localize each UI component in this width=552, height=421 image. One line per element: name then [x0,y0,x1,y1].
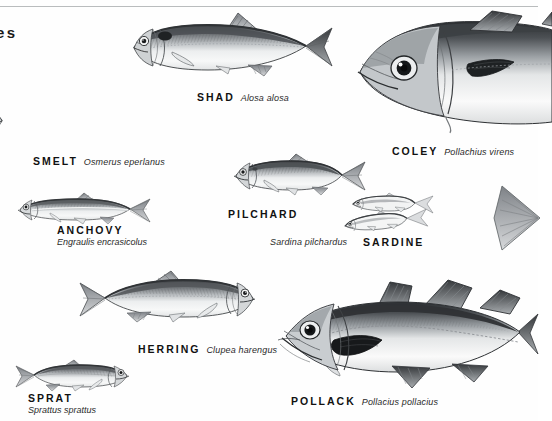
species-label-smelt: SMELTOsmerus eperlanus [33,150,165,170]
species-common-name: PILCHARD [228,208,298,220]
fish-illustration-smelt [12,92,182,150]
fish-illustration-sprat [14,358,134,394]
fish-illustration-cropped-tail [492,168,542,268]
species-common-name: SARDINE [363,236,424,248]
species-label-pilchard: PILCHARD [228,203,298,223]
species-scientific-name: Sardina pilchardus [270,237,347,247]
species-scientific-name: Sprattus sprattus [28,405,96,416]
species-scientific-name: Engraulis encrasicolus [57,237,147,248]
species-label-shad: SHADAlosa alosa [197,86,289,106]
fish-illustration-anchovy [12,192,152,228]
species-scientific-name: Pollachius virens [444,147,514,157]
species-label-sardine: SARDINE [363,231,424,251]
species-label-coley: COLEYPollachius virens [392,140,514,160]
page-top-rule [0,6,538,7]
page-title-fragment: es [0,24,18,41]
species-label-pollack: POLLACKPollacius pollacius [291,390,438,410]
species-label-sprat: SPRAT Sprattus sprattus [28,392,96,416]
fish-illustration-herring [78,268,263,330]
species-common-name: SMELT [33,155,78,167]
species-common-name: SPRAT [28,392,96,405]
species-label-herring: HERRINGClupea harengus [138,338,277,358]
species-scientific-name: Alosa alosa [241,93,289,103]
species-common-name: SHAD [197,91,235,103]
species-scientific-name: Clupea harengus [206,345,277,355]
species-common-name: POLLACK [291,395,356,407]
species-label-anchovy: ANCHOVY Engraulis encrasicolus [57,224,147,248]
fish-illustration-sardine [341,192,441,232]
species-scientific-label-pilchard: Sardina pilchardus [270,230,347,250]
fish-illustration-pollack [272,276,538,388]
species-scientific-name: Pollacius pollacius [362,397,438,407]
species-scientific-name: Osmerus eperlanus [84,157,165,167]
species-common-name: ANCHOVY [57,224,147,237]
fish-illustration-shad [120,8,335,88]
species-common-name: HERRING [138,343,200,355]
fish-illustration-coley [352,10,552,135]
species-common-name: COLEY [392,145,438,157]
